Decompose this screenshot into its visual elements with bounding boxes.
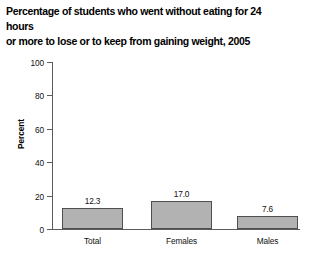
x-category-label: Females bbox=[151, 236, 212, 246]
bar bbox=[237, 216, 298, 229]
y-tick-mark bbox=[47, 196, 52, 197]
bar-chart: Percentage of students who went without … bbox=[0, 0, 314, 261]
bar-value-label: 17.0 bbox=[151, 189, 212, 199]
chart-title: Percentage of students who went without … bbox=[6, 4, 287, 49]
bar-value-label: 12.3 bbox=[62, 196, 123, 206]
y-tick-mark bbox=[47, 162, 52, 163]
bar bbox=[62, 208, 123, 229]
y-tick-mark bbox=[47, 62, 52, 63]
x-category-label: Total bbox=[62, 236, 123, 246]
y-axis-line bbox=[52, 62, 53, 230]
y-tick-mark bbox=[47, 129, 52, 130]
y-tick-label: 0 bbox=[4, 225, 44, 235]
y-tick-label: 20 bbox=[4, 191, 44, 201]
y-tick-label: 40 bbox=[4, 158, 44, 168]
x-axis-line bbox=[52, 229, 300, 230]
x-category-label: Males bbox=[237, 236, 298, 246]
y-tick-label: 80 bbox=[4, 91, 44, 101]
y-tick-mark bbox=[47, 95, 52, 96]
y-tick-label: 60 bbox=[4, 124, 44, 134]
bar bbox=[151, 201, 212, 229]
bar-value-label: 7.6 bbox=[237, 204, 298, 214]
y-tick-label: 100 bbox=[4, 58, 44, 68]
y-tick-mark bbox=[47, 229, 52, 230]
